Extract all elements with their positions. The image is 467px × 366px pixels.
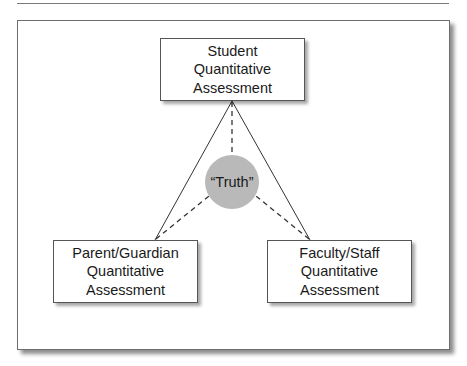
truth-label: “Truth” — [211, 174, 254, 190]
node-line: Faculty/Staff — [299, 244, 379, 263]
node-line: Assessment — [193, 79, 272, 98]
node-truth: “Truth” — [205, 155, 259, 209]
node-faculty-staff-assessment: Faculty/Staff Quantitative Assessment — [267, 240, 412, 303]
node-line: Quantitative — [301, 262, 378, 281]
node-line: Parent/Guardian — [72, 244, 178, 263]
node-line: Quantitative — [87, 262, 164, 281]
node-line: Assessment — [86, 281, 165, 300]
node-line: Quantitative — [194, 60, 271, 79]
node-student-assessment: Student Quantitative Assessment — [160, 38, 305, 101]
node-line: Assessment — [300, 281, 379, 300]
node-line: Student — [208, 42, 258, 61]
edge-right-to-truth — [256, 196, 309, 239]
node-parent-guardian-assessment: Parent/Guardian Quantitative Assessment — [53, 240, 198, 303]
edge-left-to-truth — [156, 196, 209, 239]
